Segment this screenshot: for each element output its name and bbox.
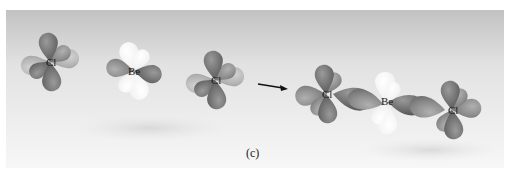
floor-shadow	[360, 138, 500, 162]
becl2-orbital-diagram: Cl Be Cl	[0, 0, 508, 173]
atom-label: Be	[128, 65, 140, 77]
atom-label: Cl	[211, 74, 221, 86]
floor-shadow	[70, 114, 230, 142]
atom-label: Cl	[46, 56, 56, 68]
atom-label: Be	[381, 95, 393, 107]
atom-label: Cl	[322, 88, 332, 100]
figure-caption: (c)	[246, 146, 259, 160]
atom-label: Cl	[448, 104, 458, 116]
